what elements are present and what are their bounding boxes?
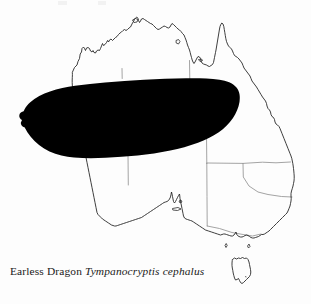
bass-strait-island-west bbox=[225, 244, 227, 248]
distribution-map-figure: Earless DragonTympanocryptis cephalus bbox=[0, 0, 311, 304]
range-west-coast-extension bbox=[19, 111, 27, 128]
scan-artifact-right bbox=[98, 1, 106, 5]
tasmania-detail-mark bbox=[245, 277, 247, 278]
earless-dragon-range-shading bbox=[22, 78, 240, 158]
north-coast-islands bbox=[133, 19, 203, 62]
south-coast-islands bbox=[173, 200, 251, 248]
figure-caption: Earless DragonTympanocryptis cephalus bbox=[10, 264, 204, 278]
kangaroo-island bbox=[173, 208, 182, 211]
caption-common-name: Earless Dragon bbox=[10, 265, 82, 277]
australia-map-svg bbox=[0, 0, 311, 304]
tasmania-group bbox=[232, 258, 251, 284]
border-qld-nsw bbox=[243, 163, 292, 197]
scan-artifact-left bbox=[58, 1, 67, 5]
tasmania-coastline bbox=[232, 258, 251, 284]
caption-scientific-name: Tympanocryptis cephalus bbox=[82, 265, 204, 277]
border-sa-qld-nsw bbox=[207, 162, 291, 163]
groote-eylandt bbox=[176, 40, 180, 45]
bass-strait-island-east bbox=[248, 244, 251, 248]
